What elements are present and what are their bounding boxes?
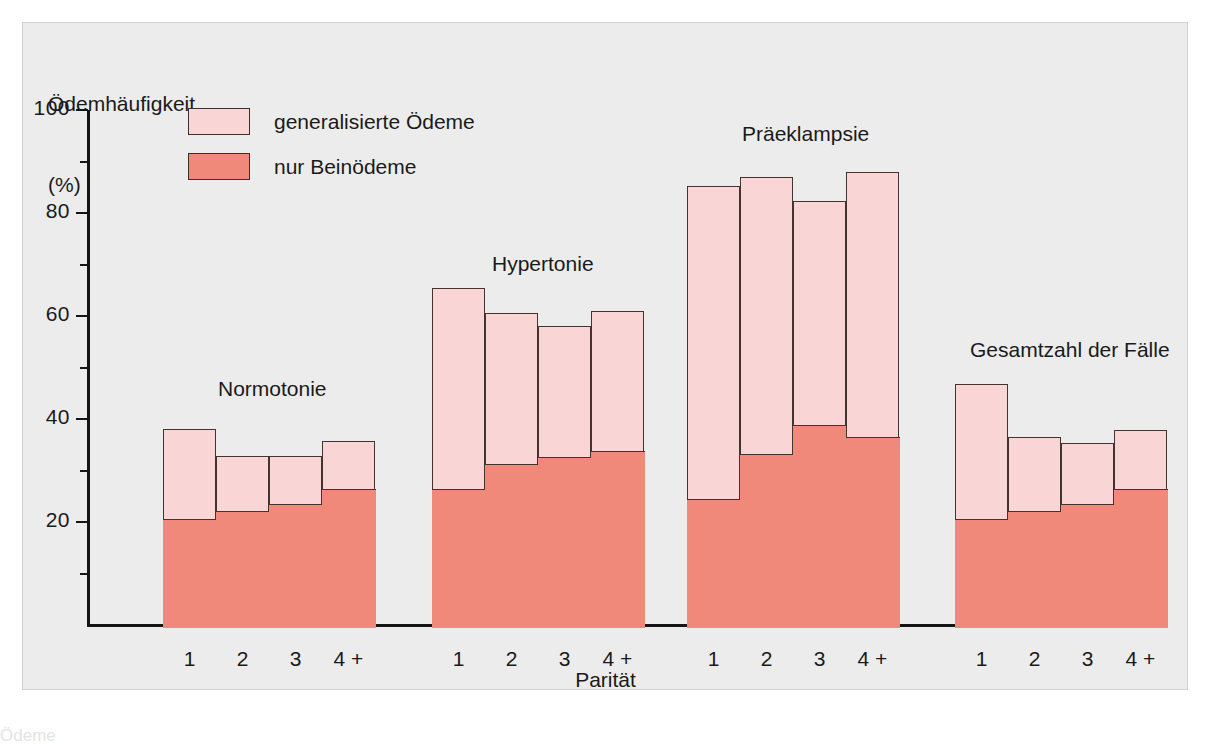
legend-item-generalisierte-oedeme: generalisierte Ödeme	[188, 108, 475, 135]
bar-segment-nur-beinoedeme	[846, 437, 900, 628]
legend-label-nur-beinoedeme: nur Beinödeme	[274, 155, 416, 179]
bar-segment-nur-beinoedeme	[216, 511, 270, 628]
y-tick-major-100	[76, 109, 88, 111]
chart-plot-area: Ödemhäufigkeit (%) 10080604020 generalis…	[0, 0, 1211, 744]
y-axis-title-line2: (%)	[48, 171, 195, 198]
bar-segment-nur-beinoedeme	[485, 464, 539, 628]
bar-gesamtzahl-der-f-lle-1[interactable]	[955, 384, 1008, 627]
chart-legend: generalisierte Ödeme nur Beinödeme	[188, 108, 475, 198]
bar-segment-nur-beinoedeme	[432, 489, 486, 627]
bar-segment-nur-beinoedeme	[687, 499, 741, 628]
y-tick-label-40: 40	[20, 405, 70, 429]
y-tick-minor-30	[80, 470, 88, 472]
bar-segment-nur-beinoedeme	[793, 425, 847, 628]
bar-pr-eklampsie-3[interactable]	[793, 201, 846, 627]
bar-group-label-4: Gesamtzahl der Fälle	[970, 338, 1170, 362]
bar-gesamtzahl-der-f-lle-2[interactable]	[1008, 437, 1061, 627]
y-tick-label-text: 40	[30, 405, 70, 429]
bar-normotonie-1[interactable]	[163, 429, 216, 627]
bar-normotonie-4[interactable]	[322, 441, 375, 627]
bar-normotonie-3[interactable]	[269, 456, 322, 627]
y-axis-title-line1: Ödemhäufigkeit	[48, 90, 195, 117]
bar-gesamtzahl-der-f-lle-3[interactable]	[1061, 443, 1114, 627]
bar-group-label-1: Normotonie	[218, 377, 327, 401]
bar-pr-eklampsie-4[interactable]	[846, 172, 899, 627]
y-tick-minor-10	[80, 573, 88, 575]
y-tick-label-20: 20	[20, 508, 70, 532]
bar-segment-nur-beinoedeme	[1114, 489, 1168, 627]
y-tick-minor-70	[80, 264, 88, 266]
bar-segment-nur-beinoedeme	[322, 489, 376, 627]
bar-gesamtzahl-der-f-lle-4[interactable]	[1114, 430, 1167, 627]
bar-group-label-2: Hypertonie	[492, 252, 594, 276]
y-tick-major-60	[76, 315, 88, 317]
bar-hypertonie-3[interactable]	[538, 326, 591, 627]
bar-hypertonie-1[interactable]	[432, 288, 485, 627]
y-tick-major-20	[76, 521, 88, 523]
y-tick-minor-90	[80, 161, 88, 163]
legend-label-generalisierte-oedeme: generalisierte Ödeme	[274, 110, 475, 134]
bar-pr-eklampsie-1[interactable]	[687, 186, 740, 627]
y-tick-label-text: 100	[30, 96, 70, 120]
x-axis-title: Parität	[0, 668, 1211, 692]
legend-item-nur-beinoedeme: nur Beinödeme	[188, 153, 475, 180]
bar-group-label-3: Präeklampsie	[742, 122, 869, 146]
legend-swatch-generalisierte-oedeme	[188, 108, 250, 135]
legend-swatch-nur-beinoedeme	[188, 153, 250, 180]
bar-segment-nur-beinoedeme	[163, 519, 217, 627]
bar-segment-nur-beinoedeme	[1061, 504, 1115, 628]
y-tick-minor-50	[80, 367, 88, 369]
bar-segment-nur-beinoedeme	[1008, 511, 1062, 628]
caption-text: Ödeme	[0, 726, 56, 744]
bar-segment-nur-beinoedeme	[740, 454, 794, 627]
bar-segment-nur-beinoedeme	[591, 451, 645, 628]
y-tick-label-text: 80	[30, 199, 70, 223]
y-tick-label-text: 60	[30, 302, 70, 326]
bar-hypertonie-4[interactable]	[591, 311, 644, 627]
bar-hypertonie-2[interactable]	[485, 313, 538, 627]
bar-segment-nur-beinoedeme	[538, 457, 592, 627]
bar-pr-eklampsie-2[interactable]	[740, 177, 793, 627]
y-tick-label-100: 100	[20, 96, 70, 120]
y-tick-major-80	[76, 212, 88, 214]
y-axis-title: Ödemhäufigkeit (%)	[48, 36, 195, 252]
y-tick-label-text: 20	[30, 508, 70, 532]
bar-normotonie-2[interactable]	[216, 456, 269, 627]
y-axis-line	[87, 110, 90, 627]
y-tick-label-60: 60	[20, 302, 70, 326]
y-tick-label-80: 80	[20, 199, 70, 223]
cut-off-caption: Ödeme	[0, 726, 1211, 744]
y-tick-major-40	[76, 418, 88, 420]
bar-segment-nur-beinoedeme	[269, 504, 323, 628]
bar-segment-nur-beinoedeme	[955, 519, 1009, 627]
